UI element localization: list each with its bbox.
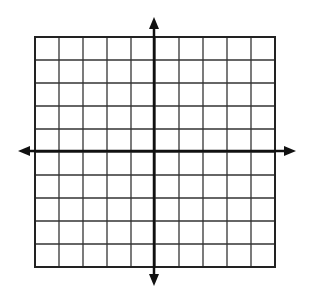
arrow-left-icon: [18, 146, 30, 156]
axes: [18, 17, 296, 286]
arrow-up-icon: [149, 17, 159, 29]
arrow-down-icon: [149, 274, 159, 286]
coordinate-plane: [0, 0, 313, 299]
arrow-right-icon: [284, 146, 296, 156]
